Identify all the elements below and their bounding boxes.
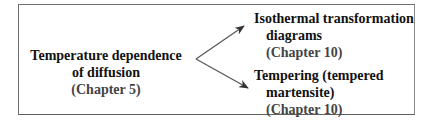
arrow-down-icon xyxy=(196,59,248,88)
arrow-up-icon xyxy=(196,26,244,59)
branch-arrows xyxy=(0,0,436,123)
